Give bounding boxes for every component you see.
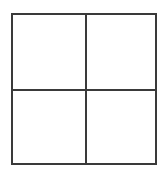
grid-cell-bottom-right-label — [87, 91, 155, 163]
grid-cell-bottom-left[interactable] — [13, 91, 85, 163]
grid-cell-bottom-left-label — [13, 91, 85, 163]
grid-cell-top-left-label — [13, 15, 85, 89]
grid-cell-top-right[interactable] — [87, 15, 155, 89]
grid-divider-horizontal — [13, 89, 155, 91]
grid-cell-bottom-right[interactable] — [87, 91, 155, 163]
grid-cell-top-left[interactable] — [13, 15, 85, 89]
four-quadrant-grid — [11, 13, 157, 165]
figure-canvas — [0, 0, 166, 176]
grid-cell-top-right-label — [87, 15, 155, 89]
